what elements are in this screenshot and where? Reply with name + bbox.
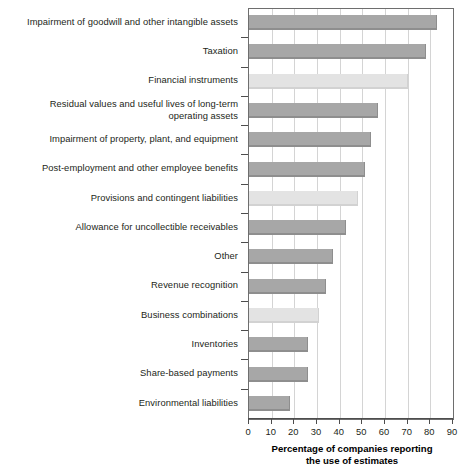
horizontal-bar-chart: Impairment of goodwill and other intangi… [0, 0, 466, 474]
category-tick [241, 184, 248, 185]
x-tick-label: 30 [304, 426, 328, 437]
category-tick [241, 125, 248, 126]
x-axis-title-line2: the use of estimates [238, 455, 466, 467]
gridline [340, 9, 341, 419]
x-tick [384, 419, 385, 424]
category-label: Revenue recognition [151, 279, 238, 291]
bar [249, 74, 408, 89]
bar [249, 337, 308, 352]
x-tick [452, 419, 453, 424]
x-axis-title-line1: Percentage of companies reporting [238, 443, 466, 455]
category-label: Impairment of property, plant, and equip… [49, 133, 238, 145]
x-tick-label: 10 [259, 426, 283, 437]
category-label: Post-employment and other employee benef… [42, 162, 238, 174]
x-tick [271, 419, 272, 424]
bar [249, 103, 378, 118]
x-tick [361, 419, 362, 424]
category-tick [241, 242, 248, 243]
category-tick [241, 272, 248, 273]
category-label: Provisions and contingent liabilities [91, 192, 238, 204]
category-tick [241, 67, 248, 68]
x-tick-label: 40 [327, 426, 351, 437]
gridline [385, 9, 386, 419]
gridline [272, 9, 273, 419]
gridline [408, 9, 409, 419]
bar [249, 367, 308, 382]
x-tick-label: 50 [349, 426, 373, 437]
gridline [430, 9, 431, 419]
gridline [317, 9, 318, 419]
bar [249, 162, 365, 177]
x-tick [293, 419, 294, 424]
x-tick-label: 20 [281, 426, 305, 437]
gridline [362, 9, 363, 419]
bar [249, 308, 319, 323]
category-tick [241, 359, 248, 360]
x-tick [429, 419, 430, 424]
category-label: Impairment of goodwill and other intangi… [27, 16, 238, 28]
category-label: Other [214, 250, 238, 262]
category-label: Residual values and useful lives of long… [50, 98, 238, 121]
category-tick [241, 301, 248, 302]
bar [249, 44, 426, 59]
category-axis-labels: Impairment of goodwill and other intangi… [0, 8, 243, 418]
bar [249, 279, 326, 294]
category-label: Taxation [203, 45, 238, 57]
category-label: Share-based payments [140, 367, 238, 379]
x-axis-line [248, 418, 453, 419]
x-tick [407, 419, 408, 424]
category-label: Financial instruments [148, 74, 238, 86]
x-tick [248, 419, 249, 424]
x-tick-label: 70 [395, 426, 419, 437]
category-tick [241, 389, 248, 390]
category-tick [241, 37, 248, 38]
bar [249, 396, 290, 411]
plot-area [248, 8, 454, 420]
x-tick-label: 80 [417, 426, 441, 437]
bar [249, 191, 358, 206]
x-tick [339, 419, 340, 424]
bar [249, 220, 346, 235]
x-tick-label: 0 [236, 426, 260, 437]
category-tick [241, 330, 248, 331]
bar [249, 132, 371, 147]
category-tick [241, 213, 248, 214]
category-label: Allowance for uncollectible receivables [76, 221, 238, 233]
category-label: Environmental liabilities [139, 397, 238, 409]
x-tick-label: 60 [372, 426, 396, 437]
category-label: Inventories [192, 338, 238, 350]
bar [249, 249, 333, 264]
x-axis-title: Percentage of companies reporting the us… [238, 443, 466, 467]
category-label: Business combinations [141, 309, 238, 321]
category-tick [241, 154, 248, 155]
category-tick [241, 96, 248, 97]
x-tick [316, 419, 317, 424]
gridline [294, 9, 295, 419]
x-tick-label: 90 [440, 426, 464, 437]
bar [249, 15, 437, 30]
